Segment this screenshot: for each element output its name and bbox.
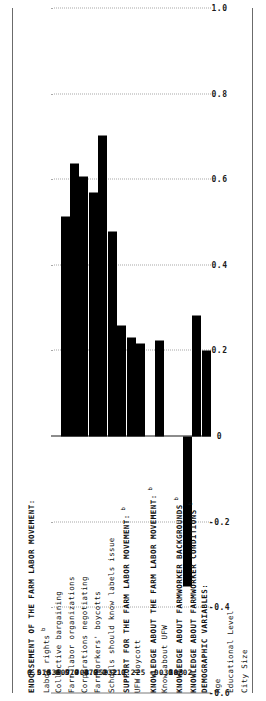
category-label: Age [213,678,222,693]
category-section-header: KNOWLEDGE ABOUT THE FARM LABOR MOVEMENT:… [147,487,158,693]
bar [61,217,70,437]
bar [136,343,145,436]
bar [98,135,107,436]
footnote-marker: b [187,502,193,510]
category-label: City Size [240,649,249,693]
category-label: Collective bargaining [54,591,63,693]
bar [89,192,98,436]
category-section-header: DEMOGRAPHIC VARIABLES: [200,584,209,693]
axis-tick-strip: -0.6-0.4-0.200.20.40.60.81.0 [215,8,235,693]
axis-tick-label: 1.0 [212,4,228,13]
bar [108,231,117,436]
page-rule-right [252,8,253,693]
axis-tick-label: 0.4 [212,260,228,269]
footnote-marker: b [120,507,126,515]
footnote-marker: b [173,497,179,505]
bar-chart: 0.5130.6380.6070.5700.7030.4790.2590.232… [17,8,249,693]
axis-tick-label: 0.6 [212,175,228,184]
footnote-marker: b [40,627,46,634]
category-label: Farmworkers' boycotts [93,591,102,693]
category-label: Know about UFW [160,625,169,693]
bar [155,340,164,436]
figure-page: 0.5130.6380.6070.5700.7030.4790.2590.232… [0,0,266,701]
category-label: Corporations negotiating [80,576,89,693]
category-label: UFW Boycott [133,639,142,693]
category-label: Farm labor organizations [67,576,76,693]
category-section-header: KNOWLEDGE ABOUT FARMWORKER CONDITIONS b [187,502,198,693]
footnote-marker: b [147,487,153,495]
page-rule-left [12,8,13,693]
bar [117,325,126,436]
bar [127,337,136,436]
gridline [51,93,211,94]
category-label: Schools should know labels issue [107,537,116,693]
bar [70,163,79,436]
category-label: Labor rights b [40,627,51,693]
axis-tick-label: -0.2 [209,517,230,526]
bar [202,350,211,436]
gridline [51,7,211,8]
bar [79,176,88,436]
category-section-header: KNOWLEDGE ABOUT FARMWORKER BACKGROUNDS b [173,497,184,693]
bar [192,315,201,436]
category-section-header: SUPPORT FOR THE FARM LABOR MOVEMENT: b [120,507,131,693]
axis-tick-label: 0 [217,432,222,441]
axis-tick-label: 0.2 [212,346,228,355]
axis-tick-label: 0.8 [212,89,228,98]
category-section-header: ENDORSEMENT OF THE FARM LABOR MOVEMENT: [27,499,36,693]
category-label: Educational Level [226,610,235,693]
